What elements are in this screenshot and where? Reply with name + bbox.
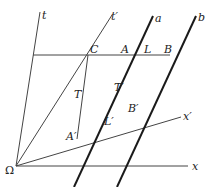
t-axis — [16, 12, 40, 166]
x-prime-axis — [16, 117, 181, 166]
diagram-canvas — [0, 0, 210, 187]
spacetime-diagram: t t′ a b C A L B T T′ x′ B′ L′ A′ Ω x — [0, 0, 210, 187]
label-T-prime: T′ — [114, 82, 124, 93]
t-prime-axis — [16, 15, 112, 166]
label-x-prime: x′ — [183, 111, 192, 122]
label-a: a — [155, 13, 162, 24]
label-t: t — [42, 10, 46, 21]
label-x: x — [192, 161, 198, 172]
label-b: b — [198, 12, 205, 23]
label-A-prime: A′ — [66, 131, 76, 142]
label-L-prime: L′ — [104, 116, 114, 127]
label-t-prime: t′ — [111, 11, 118, 22]
label-A: A — [121, 44, 129, 55]
worldline-a — [74, 16, 153, 187]
label-C: C — [90, 44, 98, 55]
label-B: B — [164, 44, 172, 55]
label-L: L — [144, 44, 151, 55]
label-B-prime: B′ — [128, 103, 139, 114]
label-omega: Ω — [5, 165, 14, 176]
label-T: T — [74, 89, 81, 100]
